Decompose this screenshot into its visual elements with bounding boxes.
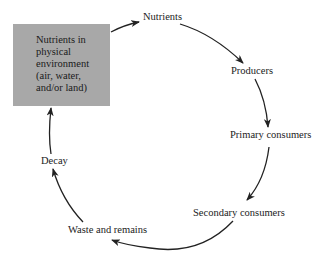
arrow-primary-to-secondary xyxy=(247,147,269,200)
arrow-decay-to-box xyxy=(50,108,52,154)
cycle-arrows xyxy=(0,0,318,265)
arrow-box-to-nutrients xyxy=(111,22,139,32)
arrow-waste-to-decay xyxy=(53,169,83,222)
nutrient-cycle-diagram: Nutrients in physical environment (air, … xyxy=(0,0,318,265)
arrow-producers-to-primary xyxy=(255,79,268,127)
arrow-nutrients-to-producers xyxy=(180,24,243,63)
arrow-secondary-to-waste xyxy=(112,221,233,249)
